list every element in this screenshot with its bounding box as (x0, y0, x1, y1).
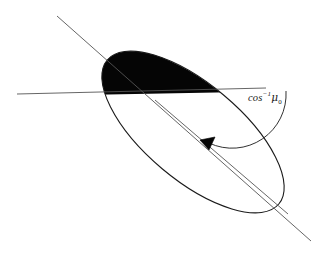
angle-arc-arrowhead (200, 137, 215, 150)
inner-radius-line (155, 100, 288, 214)
angle-label-exponent: −1 (263, 90, 272, 98)
angle-label-function: cos (248, 92, 263, 103)
clipped-caption (0, 244, 324, 253)
angle-label: cos−1μ0 (248, 90, 282, 106)
disc-axis-line (57, 16, 311, 241)
clipped-caption-text (320, 244, 324, 251)
angle-label-subscript: 0 (278, 98, 282, 106)
geometry-diagram (0, 0, 324, 253)
figure-container: cos−1μ0 (0, 0, 324, 253)
